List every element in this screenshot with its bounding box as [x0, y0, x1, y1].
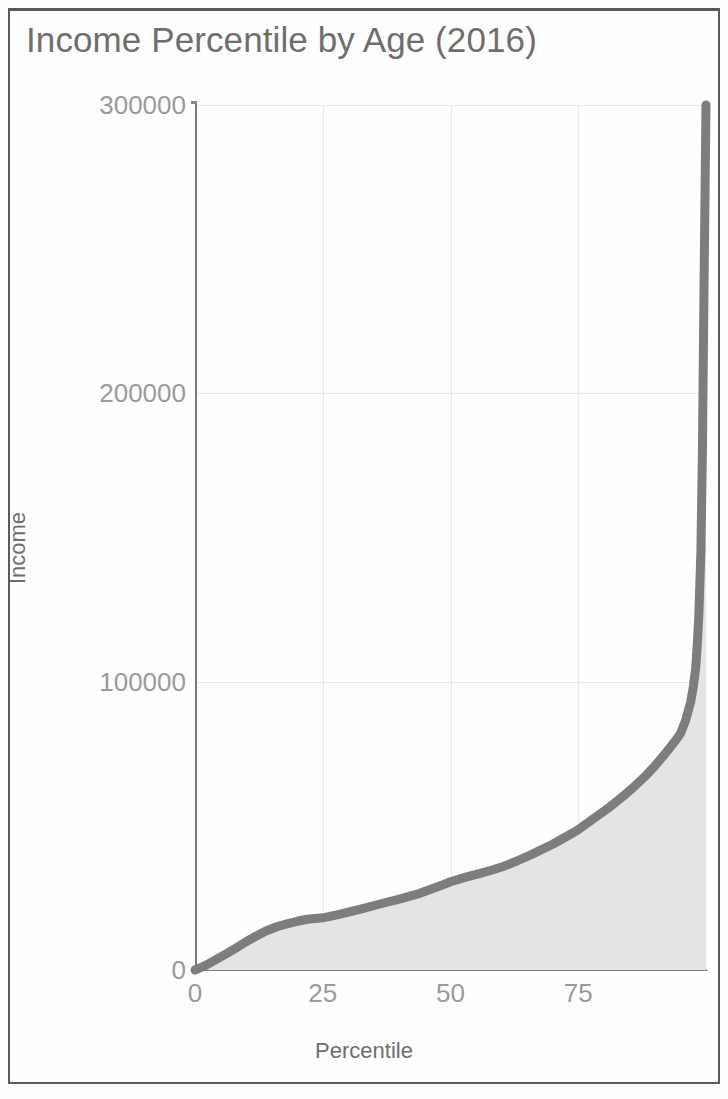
- x-tick-labels: 0255075: [0, 0, 728, 1099]
- x-axis-title: Percentile: [0, 1038, 728, 1064]
- plot-wrapper: 0100000200000300000 0255075: [0, 0, 728, 1099]
- x-tick-label: 50: [436, 978, 465, 1009]
- scanned-chart-page: Income Percentile by Age (2016) 01000002…: [0, 0, 728, 1099]
- x-tick-label: 75: [564, 978, 593, 1009]
- x-tick-label: 25: [308, 978, 337, 1009]
- y-axis-title: Income: [5, 512, 31, 584]
- x-tick-label: 0: [188, 978, 202, 1009]
